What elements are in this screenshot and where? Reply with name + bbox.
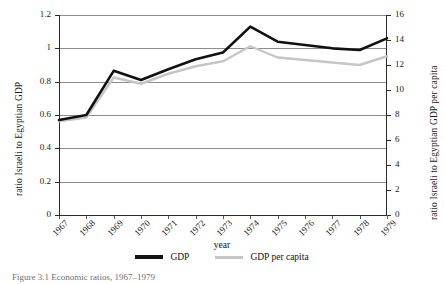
y-tick-right — [387, 40, 391, 41]
y-tick-label-left: 0 — [11, 209, 51, 219]
series-lines — [59, 15, 387, 215]
legend-item[interactable]: GDP per capita — [215, 252, 308, 262]
figure-caption: Figure 3.1 Economic ratios, 1967–1979 — [12, 272, 155, 282]
y-tick-right — [387, 15, 391, 16]
y-tick-label-left: 0.4 — [11, 142, 51, 152]
y-tick-label-right: 10 — [395, 84, 425, 94]
y-tick-label-right: 0 — [395, 209, 425, 219]
x-tick — [387, 215, 388, 219]
y-tick-label-left: 0.8 — [11, 76, 51, 86]
x-tick-label: 1975 — [269, 218, 289, 238]
y-tick-label-left: 1.2 — [11, 9, 51, 19]
y-tick-label-right: 12 — [395, 59, 425, 69]
y-tick-label-right: 4 — [395, 159, 425, 169]
y-tick-label-right: 8 — [395, 109, 425, 119]
y-tick-label-left: 0.2 — [11, 176, 51, 186]
y-tick-label-right: 2 — [395, 184, 425, 194]
y-tick-label-left: 1 — [11, 42, 51, 52]
legend-label: GDP — [170, 252, 189, 262]
y-tick-right — [387, 65, 391, 66]
series-line-gdp — [59, 27, 387, 120]
y-tick-right — [387, 140, 391, 141]
x-axis-title: year — [0, 240, 444, 250]
y-tick-label-left: 0.6 — [11, 109, 51, 119]
figure-economic-ratios: ratio Israeli to Egyptian GDP ratio Isra… — [0, 0, 444, 284]
x-tick-label: 1970 — [132, 218, 152, 238]
x-tick-label: 1972 — [187, 218, 207, 238]
x-tick-label: 1967 — [50, 218, 70, 238]
x-tick-label: 1974 — [242, 218, 262, 238]
series-line-gdp-per-capita — [59, 46, 387, 121]
y-axis-title-right: ratio Israeli to Egyptian GDP per capita — [429, 65, 439, 220]
y-tick-label-right: 14 — [395, 34, 425, 44]
x-tick-label: 1977 — [324, 218, 344, 238]
x-tick-label: 1969 — [105, 218, 125, 238]
legend-label: GDP per capita — [250, 252, 308, 262]
y-tick-right — [387, 90, 391, 91]
x-axis-line — [59, 215, 387, 216]
legend-item[interactable]: GDP — [135, 252, 189, 262]
x-tick-label: 1978 — [351, 218, 371, 238]
x-tick-label: 1979 — [378, 218, 398, 238]
legend-swatch-icon — [215, 256, 243, 259]
x-tick-label: 1973 — [214, 218, 234, 238]
plot-area: 00.20.40.60.811.2 0246810121416 19671968… — [59, 15, 387, 215]
y-tick-right — [387, 115, 391, 116]
y-tick-right — [387, 190, 391, 191]
y-tick-right — [387, 165, 391, 166]
y-tick-label-right: 6 — [395, 134, 425, 144]
legend-swatch-icon — [135, 255, 163, 258]
legend: GDPGDP per capita — [0, 252, 444, 262]
x-tick-label: 1971 — [160, 218, 180, 238]
x-tick-label: 1968 — [78, 218, 98, 238]
y-tick-label-right: 16 — [395, 9, 425, 19]
x-tick-label: 1976 — [296, 218, 316, 238]
